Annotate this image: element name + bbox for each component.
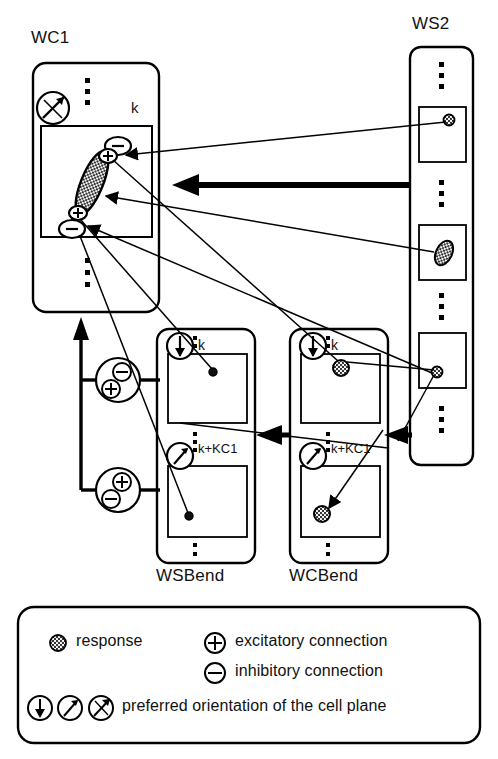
panel-title-wcbend: WCBend xyxy=(289,566,358,586)
response-dot-wcbend-bottom xyxy=(314,506,330,522)
orientation-icon-wcbend-bottom xyxy=(300,443,326,469)
orientation-down-icon xyxy=(28,696,52,720)
node-group-upper-left[interactable] xyxy=(96,358,140,402)
label-wsbend-k: k xyxy=(198,337,205,353)
orientation-icon-wc1 xyxy=(37,92,69,124)
orientation-diagonal-icon xyxy=(89,696,113,720)
orientation-icon-wsbend-top xyxy=(167,333,193,359)
orientation-icon-wsbend-bottom xyxy=(167,443,193,469)
response-dot-wsbend-bottom xyxy=(185,512,193,520)
label-wcbend-kplus: k+KC1 xyxy=(331,441,370,456)
arrow-ws2-to-wc1 xyxy=(172,174,410,196)
panel-title-wc1: WC1 xyxy=(31,28,69,48)
panel-title-ws2: WS2 xyxy=(412,14,449,34)
panel-title-wsbend: WSBend xyxy=(156,566,224,586)
response-dot-icon xyxy=(50,635,66,651)
orientation-up-right-icon xyxy=(58,696,82,720)
response-dot-wsbend-top xyxy=(209,368,217,376)
node-plus-wc1-lower[interactable] xyxy=(69,206,87,220)
plus-circle-icon xyxy=(205,633,225,653)
legend-label-excitatory: excitatory connection xyxy=(235,632,387,650)
label-wc1-k: k xyxy=(131,99,139,116)
feedback-path-left xyxy=(73,317,160,490)
label-wsbend-kplus: k+KC1 xyxy=(198,441,237,456)
node-group-lower-left[interactable] xyxy=(96,468,140,512)
legend-label-response: response xyxy=(76,632,143,650)
minus-circle-icon xyxy=(205,663,225,683)
response-dot-ws2-1 xyxy=(444,115,455,126)
response-dot-wcbend-top xyxy=(333,360,349,376)
node-minus-wc1-bottom[interactable] xyxy=(59,220,85,238)
arrow-wcbend-to-wsbend xyxy=(256,425,290,445)
legend-label-inhibitory: inhibitory connection xyxy=(235,662,383,680)
label-wcbend-k: k xyxy=(331,337,338,353)
figure-canvas: WC1 WS2 WSBend WCBend k k k+KC1 k k+KC1 … xyxy=(0,0,498,759)
legend-label-orientation: preferred orientation of the cell plane xyxy=(122,697,387,715)
